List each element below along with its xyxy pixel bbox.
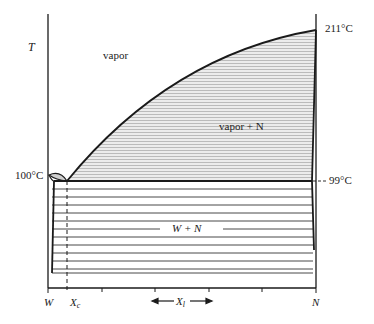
x-axis-left-end-label: W xyxy=(44,296,53,308)
phase-diagram xyxy=(0,0,374,324)
xc-label: Xc xyxy=(70,296,80,308)
w-solubility-boundary xyxy=(52,181,54,273)
temp-label-99: 99°C xyxy=(329,174,352,186)
temp-label-100: 100°C xyxy=(15,169,43,181)
y-axis-label: T xyxy=(28,40,35,55)
region-label-w-plus-n: W + N xyxy=(168,222,205,234)
region-label-vapor-plus-n: vapor + N xyxy=(219,120,264,132)
region-label-vapor: vapor xyxy=(103,49,128,61)
temp-label-211: 211°C xyxy=(325,22,353,34)
x-axis-ticks xyxy=(48,288,316,293)
x-axis-label: Xl xyxy=(176,295,185,307)
x-axis-right-end-label: N xyxy=(312,296,319,308)
